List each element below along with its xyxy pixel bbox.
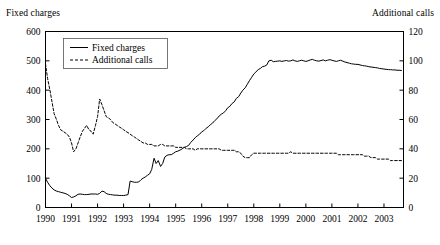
x-tick-label: 1999 xyxy=(270,214,289,224)
x-tick-label: 2003 xyxy=(374,214,393,224)
x-tick-label: 1994 xyxy=(140,214,159,224)
chart-plot-area: 0100200300400500600 020406080100120 1990… xyxy=(0,0,440,245)
x-tick-label: 1992 xyxy=(88,214,107,224)
left-axis-title: Fixed charges xyxy=(6,8,60,18)
right-tick-label: 0 xyxy=(409,203,414,213)
chart-figure: Fixed charges Additional calls 010020030… xyxy=(0,0,440,245)
right-tick-label: 40 xyxy=(409,144,419,154)
data-series-group xyxy=(46,59,402,197)
right-tick-label: 120 xyxy=(409,27,424,37)
left-tick-label: 0 xyxy=(36,203,41,213)
right-tick-label: 20 xyxy=(409,174,419,184)
x-tick-label: 2002 xyxy=(348,214,367,224)
left-tick-label: 300 xyxy=(26,115,41,125)
right-tick-label: 80 xyxy=(409,86,419,96)
x-tick-label: 1995 xyxy=(166,214,185,224)
left-axis-ticks: 0100200300400500600 xyxy=(26,27,49,213)
x-tick-label: 1993 xyxy=(114,214,133,224)
series-line-additional-calls xyxy=(46,64,402,161)
legend-label-fixed-charges: Fixed charges xyxy=(92,43,145,53)
x-tick-label: 1998 xyxy=(244,214,263,224)
x-tick-label: 1996 xyxy=(192,214,211,224)
x-tick-label: 2001 xyxy=(322,214,341,224)
x-tick-label: 1997 xyxy=(218,214,237,224)
right-tick-label: 60 xyxy=(409,115,419,125)
x-tick-label: 2000 xyxy=(296,214,315,224)
left-tick-label: 100 xyxy=(26,174,41,184)
left-tick-label: 400 xyxy=(26,86,41,96)
legend-label-additional-calls: Additional calls xyxy=(92,55,153,65)
chart-legend: Fixed charges Additional calls xyxy=(64,39,168,69)
right-tick-label: 100 xyxy=(409,56,424,66)
left-tick-label: 200 xyxy=(26,144,41,154)
right-axis-title: Additional calls xyxy=(372,8,434,18)
left-tick-label: 500 xyxy=(26,56,41,66)
left-tick-label: 600 xyxy=(26,27,41,37)
x-tick-label: 1991 xyxy=(62,214,81,224)
series-line-fixed-charges xyxy=(46,59,402,197)
x-axis-ticks: 1990199119921993199419951996199719981999… xyxy=(36,204,394,224)
x-tick-label: 1990 xyxy=(36,214,55,224)
